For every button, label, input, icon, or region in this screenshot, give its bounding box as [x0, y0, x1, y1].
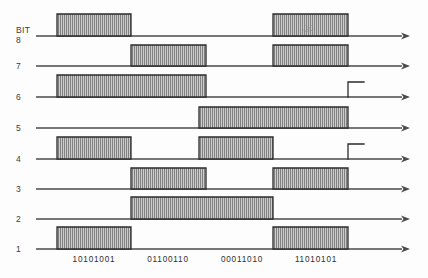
pulse-bit-4-2 [199, 137, 273, 159]
pulse-bit-8-1 [57, 14, 131, 36]
step-edge-bit-6-1 [348, 82, 364, 97]
waveform-row-bit-6 [36, 75, 410, 100]
pulse-bit-3-2 [273, 168, 348, 189]
waveform-row-bit-2 [36, 197, 410, 222]
row-number-8: 8 [16, 36, 30, 46]
pulse-bit-1-1 [57, 227, 131, 249]
arrow-head-icon-bit-4 [401, 156, 410, 163]
waveform-row-bit-5 [36, 107, 410, 131]
pulse-bit-1-2 [273, 227, 348, 249]
row-label-bit-5: 5 [16, 123, 21, 133]
waveform-row-bit-3 [36, 168, 410, 192]
row-label-bit-3: 3 [16, 184, 21, 194]
byte-label-1: 10101001 [54, 255, 134, 264]
row-label-bit-1: 1 [16, 244, 21, 254]
waveform-row-bit-7 [36, 45, 410, 69]
waveform-row-bit-1 [36, 227, 410, 252]
pulse-bit-8-2 [273, 14, 348, 36]
step-edge-bit-4-1 [348, 144, 364, 159]
row-label-bit-6: 6 [16, 92, 21, 102]
pulse-bit-2-1 [131, 197, 273, 219]
arrow-head-icon-bit-7 [401, 63, 410, 70]
pulse-bit-5-1 [199, 107, 348, 128]
arrow-head-icon-bit-8 [401, 33, 410, 40]
pulse-bit-4-1 [57, 137, 131, 159]
arrow-head-icon-bit-5 [401, 125, 410, 132]
byte-label-4: 11010101 [276, 255, 356, 264]
row-label-bit-8: BIT 8 [16, 26, 30, 45]
pulse-bit-3-1 [131, 168, 206, 189]
arrow-head-icon-bit-2 [401, 216, 410, 223]
byte-label-2: 01100110 [128, 255, 208, 264]
byte-label-3: 00011010 [202, 255, 282, 264]
row-label-bit-7: 7 [16, 61, 21, 71]
pulse-bit-7-1 [131, 45, 206, 66]
waveform-row-bit-4 [36, 137, 410, 162]
arrow-head-icon-bit-1 [401, 246, 410, 253]
timing-diagram: BIT 8 7 6 5 4 3 2 1 10101001 01100110 00… [0, 0, 428, 278]
row-label-bit-2: 2 [16, 214, 21, 224]
waveform-canvas [0, 0, 428, 278]
pulse-bit-7-2 [273, 45, 348, 66]
pulse-bit-6-1 [57, 75, 206, 97]
arrow-head-icon-bit-3 [401, 186, 410, 193]
waveform-row-bit-8 [36, 14, 410, 39]
arrow-head-icon-bit-6 [401, 94, 410, 101]
row-label-bit-4: 4 [16, 154, 21, 164]
